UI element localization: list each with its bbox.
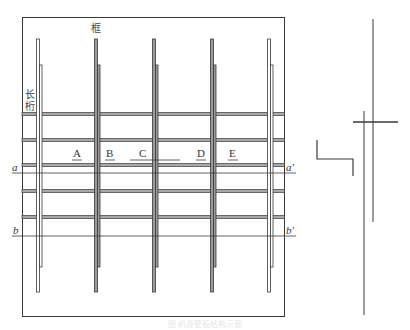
diagram-stage: 框 长 桁 a a' b b' A B C D E 图 机身壁板结构示意: [0, 0, 410, 330]
bay-label-d: D: [197, 148, 205, 159]
bay-label-b: B: [106, 148, 113, 159]
frame-label: 框: [91, 24, 101, 34]
figure-caption: 图 机身壁板结构示意: [0, 318, 410, 329]
section-a-label-right: a': [286, 162, 294, 173]
stringer-label-bottom: 桁: [25, 102, 35, 112]
frame-web: [268, 39, 271, 292]
frame-flange: [98, 65, 101, 267]
frame-web: [95, 39, 98, 292]
frame-flange: [156, 65, 159, 267]
frame-web: [153, 39, 156, 292]
section-b-label-right: b': [286, 225, 294, 236]
frame-flange: [214, 65, 217, 267]
bay-label-c: C: [139, 148, 146, 159]
frame-web: [37, 39, 40, 292]
stringer-label-top: 长: [25, 90, 35, 100]
structure-drawing: [0, 0, 410, 330]
detail-view: [317, 19, 398, 315]
section-b-label-left: b: [13, 225, 19, 236]
frame-web: [211, 39, 214, 292]
frame-flange: [271, 65, 274, 267]
detail-bracket: [317, 140, 353, 176]
bay-label-a: A: [73, 148, 81, 159]
frame-flange: [40, 65, 43, 267]
section-a-label-left: a: [12, 162, 18, 173]
bay-label-e: E: [229, 148, 236, 159]
